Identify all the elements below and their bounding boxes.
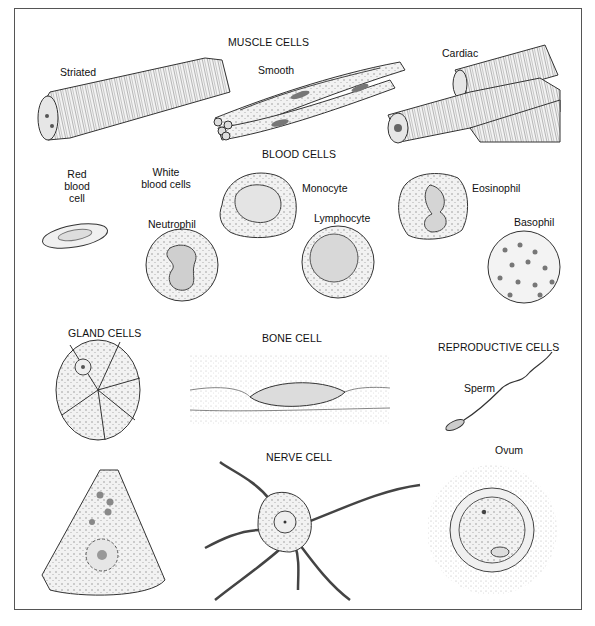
- cardiac-muscle-illustration: [388, 45, 560, 143]
- monocyte-label: Monocyte: [302, 182, 348, 194]
- sperm-illustration: [444, 352, 552, 433]
- sperm-label: Sperm: [464, 382, 495, 394]
- smooth-label: Smooth: [258, 64, 294, 76]
- bone-cell-heading: BONE CELL: [262, 332, 322, 344]
- nerve-cell-illustration: [205, 462, 420, 600]
- neutrophil-illustration: [146, 229, 218, 301]
- red-blood-cell-illustration: [41, 219, 110, 252]
- striated-label: Striated: [60, 66, 96, 78]
- cardiac-label: Cardiac: [442, 47, 478, 59]
- reproductive-cells-heading: REPRODUCTIVE CELLS: [438, 341, 559, 353]
- eosinophil-label: Eosinophil: [472, 182, 520, 194]
- lymphocyte-illustration: [302, 226, 374, 298]
- ovum-illustration: [427, 465, 557, 595]
- blood-cells-heading: BLOOD CELLS: [262, 148, 336, 160]
- ovum-label: Ovum: [495, 444, 523, 456]
- muscle-cells-heading: MUSCLE CELLS: [228, 36, 309, 48]
- bone-cell-illustration: [190, 355, 390, 425]
- gland-cell-illustration: [42, 470, 165, 595]
- gland-cluster-illustration: [56, 340, 140, 440]
- neutrophil-label: Neutrophil: [148, 218, 196, 230]
- cell-illustrations: [0, 0, 595, 626]
- basophil-label: Basophil: [514, 216, 554, 228]
- red-blood-cell-label: Red blood cell: [60, 168, 94, 204]
- gland-cells-heading: GLAND CELLS: [68, 327, 141, 339]
- eosinophil-illustration: [399, 174, 468, 240]
- lymphocyte-label: Lymphocyte: [314, 212, 370, 224]
- smooth-muscle-illustration: [214, 62, 405, 140]
- basophil-illustration: [488, 231, 560, 303]
- white-blood-cells-label: White blood cells: [136, 166, 196, 190]
- nerve-cell-heading: NERVE CELL: [266, 451, 332, 463]
- monocyte-illustration: [220, 173, 296, 238]
